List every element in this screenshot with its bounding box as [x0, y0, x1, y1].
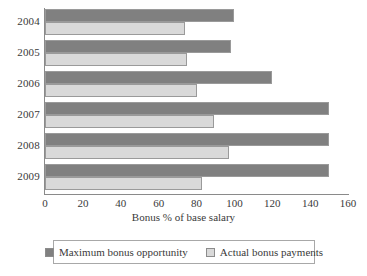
- x-tick-label: 20: [77, 198, 88, 209]
- x-tick-label: 40: [115, 198, 126, 209]
- y-tick-label: 2004: [0, 16, 40, 27]
- y-tick-label: 2007: [0, 109, 40, 120]
- y-axis-tick-labels: 200420052006200720082009: [0, 8, 367, 194]
- x-axis-title: Bonus % of base salary: [0, 211, 367, 223]
- x-tick-label: 160: [340, 198, 357, 209]
- dark-gray-swatch: [45, 248, 54, 257]
- y-tick-label: 2006: [0, 78, 40, 89]
- bar-chart: 200420052006200720082009 020406080100120…: [0, 0, 367, 276]
- y-tick-label: 2009: [0, 171, 40, 182]
- legend-label: Actual bonus payments: [220, 247, 323, 258]
- chart-legend: Maximum bonus opportunityActual bonus pa…: [53, 240, 315, 264]
- y-tick-label: 2008: [0, 140, 40, 151]
- y-tick-label: 2005: [0, 47, 40, 58]
- legend-entry: Maximum bonus opportunity: [45, 247, 188, 258]
- legend-label: Maximum bonus opportunity: [59, 247, 188, 258]
- legend-entry: Actual bonus payments: [206, 247, 323, 258]
- x-tick-label: 60: [153, 198, 164, 209]
- light-gray-swatch: [206, 248, 215, 257]
- x-axis-tick-labels: 020406080100120140160: [0, 195, 367, 211]
- x-tick-label: 0: [42, 198, 48, 209]
- x-tick-label: 120: [264, 198, 281, 209]
- x-tick-label: 100: [226, 198, 243, 209]
- x-tick-label: 80: [191, 198, 202, 209]
- x-tick-label: 140: [302, 198, 319, 209]
